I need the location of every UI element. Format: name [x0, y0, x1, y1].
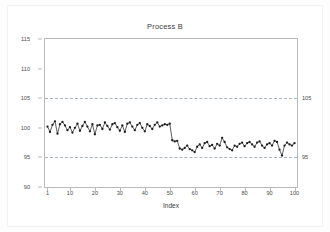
page-title: Process B [8, 22, 322, 31]
data-point [214, 147, 216, 149]
control-limit-label-105: 105 [302, 95, 311, 101]
data-point [91, 123, 93, 125]
data-point [174, 140, 176, 142]
data-point [124, 131, 126, 133]
data-point [139, 122, 141, 124]
data-point [51, 124, 53, 126]
plot-area [44, 38, 298, 188]
data-point [233, 144, 235, 146]
data-point [156, 121, 158, 123]
reference-line-105 [45, 98, 297, 99]
data-point [129, 121, 131, 123]
data-point [54, 120, 56, 122]
series-line-0 [48, 121, 295, 155]
data-point [271, 144, 273, 146]
x-axis-tickmark-80 [245, 188, 246, 191]
x-axis-tickmark-70 [220, 188, 221, 191]
x-axis-tickmark-100 [295, 188, 296, 191]
data-point [104, 121, 106, 123]
data-point [184, 147, 186, 149]
data-point [136, 124, 138, 126]
data-point [66, 129, 68, 131]
data-point [111, 123, 113, 125]
data-point [246, 142, 248, 144]
data-point [76, 123, 78, 125]
data-point [144, 130, 146, 132]
data-point [293, 142, 295, 144]
data-point [206, 141, 208, 143]
data-point [79, 130, 81, 132]
y-axis-tick-100: 100 [4, 125, 30, 131]
data-point [101, 128, 103, 130]
data-point [46, 125, 48, 127]
data-point [109, 128, 111, 130]
data-point [86, 125, 88, 127]
data-point [126, 123, 128, 125]
data-point [71, 131, 73, 133]
y-axis-tickmark-100 [38, 127, 42, 128]
data-point [291, 144, 293, 146]
x-axis-tickmark-40 [145, 188, 146, 191]
reference-line-95 [45, 157, 297, 158]
data-point [49, 131, 51, 133]
data-series-line [45, 39, 297, 187]
data-point [149, 125, 151, 127]
x-axis-tickmark-90 [270, 188, 271, 191]
data-point [276, 141, 278, 143]
x-axis-tickmark-1 [47, 188, 48, 191]
data-point [96, 124, 98, 126]
data-point [251, 143, 253, 145]
data-point [201, 147, 203, 149]
data-point [94, 133, 96, 135]
data-point [204, 142, 206, 144]
data-point [209, 145, 211, 147]
data-point [196, 146, 198, 148]
data-point [141, 127, 143, 129]
data-point [283, 144, 285, 146]
data-point [171, 139, 173, 141]
y-axis-tickmark-105 [38, 98, 42, 99]
x-axis-tickmark-20 [95, 188, 96, 191]
data-point [256, 141, 258, 143]
data-point [99, 124, 101, 126]
data-point [258, 140, 260, 142]
y-axis-tick-90: 90 [4, 184, 30, 190]
data-point [253, 146, 255, 148]
data-point [146, 123, 148, 125]
data-point [116, 126, 118, 128]
data-point [179, 147, 181, 149]
data-point [288, 143, 290, 145]
data-point [216, 143, 218, 145]
data-point [59, 123, 61, 125]
data-point [228, 148, 230, 150]
data-point [286, 141, 288, 143]
data-point [221, 137, 223, 139]
data-point [278, 149, 280, 151]
chart-screenshot: Process B Index 115110105100959010595110… [0, 0, 330, 232]
control-limit-label-95: 95 [302, 154, 308, 160]
data-point [243, 145, 245, 147]
data-point [231, 149, 233, 151]
y-axis-tickmark-110 [38, 68, 42, 69]
data-point [161, 124, 163, 126]
data-point [261, 144, 263, 146]
plot-inner [45, 39, 297, 187]
data-point [268, 142, 270, 144]
data-point [69, 126, 71, 128]
chart-card: Process B Index 115110105100959010595110… [8, 6, 322, 226]
data-point [131, 125, 133, 127]
data-point [223, 141, 225, 143]
x-axis-tickmark-60 [195, 188, 196, 191]
data-point [169, 123, 171, 125]
data-point [121, 124, 123, 126]
data-point [266, 143, 268, 145]
data-point [191, 149, 193, 151]
data-point [159, 125, 161, 127]
data-point [106, 125, 108, 127]
data-point [114, 122, 116, 124]
x-axis-tickmark-30 [120, 188, 121, 191]
data-point [241, 141, 243, 143]
data-point [119, 130, 121, 132]
data-point [81, 125, 83, 127]
data-point [186, 144, 188, 146]
